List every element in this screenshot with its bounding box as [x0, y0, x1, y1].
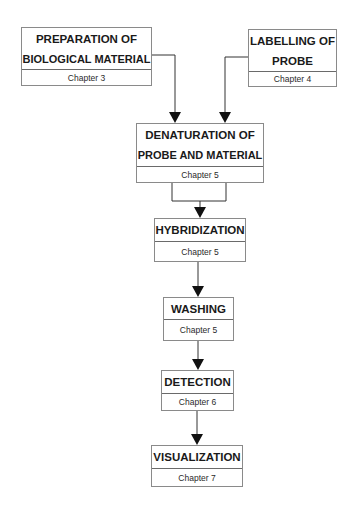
title-line: HYBRIDIZATION — [155, 220, 244, 240]
node-title: DETECTION — [162, 371, 233, 394]
title-line: LABELLING OF — [250, 31, 335, 51]
node-hybridization: HYBRIDIZATION Chapter 5 — [154, 218, 246, 262]
node-chapter: Chapter 5 — [155, 242, 245, 261]
node-visualization: VISUALIZATION Chapter 7 — [151, 445, 243, 487]
node-detection: DETECTION Chapter 6 — [161, 370, 234, 411]
node-title: DENATURATION OF PROBE AND MATERIAL — [137, 124, 263, 167]
node-preparation: PREPARATION OF BIOLOGICAL MATERIAL Chapt… — [21, 27, 152, 86]
arrowhead-icon — [192, 286, 204, 297]
title-line: DETECTION — [164, 372, 230, 392]
node-chapter: Chapter 6 — [162, 394, 233, 410]
edge-label-denat — [225, 57, 248, 114]
title-line: PROBE — [272, 51, 313, 71]
arrowhead-icon — [191, 434, 203, 445]
node-title: HYBRIDIZATION — [155, 219, 245, 242]
node-title: WASHING — [164, 298, 233, 320]
node-labelling: LABELLING OF PROBE Chapter 4 — [248, 29, 337, 87]
edge-denat-bracket — [172, 183, 226, 201]
arrowhead-icon — [192, 359, 204, 370]
node-washing: WASHING Chapter 5 — [163, 297, 234, 341]
node-chapter: Chapter 5 — [164, 320, 233, 340]
node-chapter: Chapter 7 — [152, 469, 242, 486]
node-chapter: Chapter 3 — [22, 70, 151, 85]
title-line: DENATURATION OF — [145, 125, 254, 145]
node-chapter: Chapter 5 — [137, 167, 263, 182]
title-line: VISUALIZATION — [153, 447, 240, 467]
title-line: WASHING — [171, 299, 226, 319]
node-chapter: Chapter 4 — [249, 72, 336, 86]
arrowhead-icon — [169, 112, 181, 123]
node-title: VISUALIZATION — [152, 446, 242, 469]
title-line: BIOLOGICAL MATERIAL — [23, 49, 151, 69]
title-line: PREPARATION OF — [36, 29, 137, 49]
arrowhead-icon — [219, 112, 231, 123]
node-title: PREPARATION OF BIOLOGICAL MATERIAL — [22, 28, 151, 70]
node-denaturation: DENATURATION OF PROBE AND MATERIAL Chapt… — [136, 123, 264, 183]
node-title: LABELLING OF PROBE — [249, 30, 336, 72]
arrowhead-icon — [194, 207, 206, 218]
title-line: PROBE AND MATERIAL — [138, 145, 263, 165]
edge-prep-denat — [152, 55, 175, 114]
